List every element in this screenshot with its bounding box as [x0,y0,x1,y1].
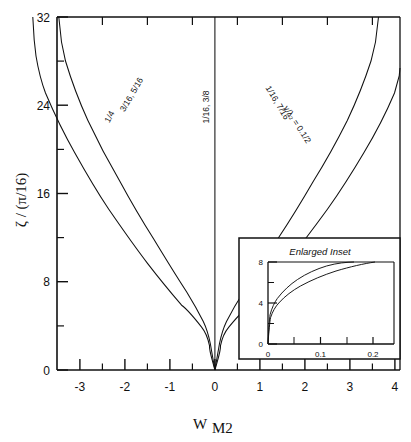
inset-x-tick-label-0: 0 [266,350,271,359]
curve-label-series-2: 1/16, 3/8 [201,90,211,123]
y-tick-label-0: 0 [43,364,50,378]
curve-label-series-1: 3/16, 5/16 [118,75,146,113]
x-axis-tick-labels: -3 -2 -1 0 1 2 3 4 [75,380,399,394]
x-axis-title-subscript: M2 [212,420,233,436]
x-axis-title-main: W [193,416,208,432]
y-axis-tick-labels: 0 8 16 24 32 [37,11,51,378]
x-tick-label-1: 1 [257,380,264,394]
curve-label-series-0: 1/4 [102,109,117,124]
inset-y-tick-label-0: 0 [259,340,264,349]
inset-x-tick-label-0.1: 0.1 [315,350,327,359]
inset-y-tick-label-4: 4 [259,299,264,308]
x-axis-ticks [80,359,395,370]
curve-labels: 1/4 3/16, 5/16 1/16, 3/8 1/16, 7/16 γ/λ₂… [102,75,313,145]
inset-title: Enlarged Inset [289,246,351,257]
y-axis-ticks [57,17,68,370]
enlarged-inset: Enlarged Inset 0 4 8 0 0.1 0.2 [239,238,400,359]
y-tick-label-16: 16 [37,187,51,201]
x-tick-label-2: 2 [302,380,309,394]
x-tick-label--1: -1 [165,380,176,394]
x-tick-label-3: 3 [347,380,354,394]
inset-y-tick-label-8: 8 [259,258,264,267]
x-tick-label--3: -3 [75,380,86,394]
x-tick-label--2: -2 [120,380,131,394]
curve-label-series-4: γ/λ₂ = 0.1/2 [282,104,314,146]
y-axis-title: ζ / (π/16) [13,173,30,228]
curve-series-1 [59,17,215,370]
y-tick-label-8: 8 [43,275,50,289]
inset-x-tick-label-0.2: 0.2 [367,350,379,359]
x-tick-label-0: 0 [212,380,219,394]
x-tick-label-4: 4 [392,380,399,394]
figure-container: 0 8 16 24 32 ζ / (π/16) [0,0,411,442]
x-axis-title: W M2 [193,416,233,436]
y-tick-label-24: 24 [37,99,51,113]
y-tick-label-32: 32 [37,11,51,25]
chart-svg: 0 8 16 24 32 ζ / (π/16) [0,0,411,442]
x-axis-top-ticks [102,17,372,25]
